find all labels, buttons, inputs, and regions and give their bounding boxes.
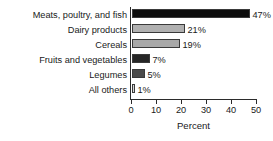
x-axis-title: Percent bbox=[130, 120, 257, 131]
x-axis-line bbox=[130, 99, 257, 100]
x-tick-label-50: 50 bbox=[251, 105, 261, 115]
x-tick-label-40: 40 bbox=[226, 105, 236, 115]
plot-area: Meats, poultry, and fish Dairy products … bbox=[0, 0, 273, 141]
category-label-dairy-products: Dairy products bbox=[0, 25, 127, 35]
x-tick-10 bbox=[156, 100, 157, 104]
bar-dairy-products bbox=[132, 24, 185, 33]
bar-legumes bbox=[132, 69, 145, 78]
bar-all-others bbox=[132, 84, 135, 93]
x-tick-label-10: 10 bbox=[151, 105, 161, 115]
bar-cereals bbox=[132, 39, 180, 48]
value-label-dairy-products: 21% bbox=[188, 25, 206, 35]
value-label-legumes: 5% bbox=[148, 70, 161, 80]
category-label-cereals: Cereals bbox=[0, 40, 127, 50]
x-tick-20 bbox=[181, 100, 182, 104]
x-tick-label-20: 20 bbox=[176, 105, 186, 115]
category-label-meats-poultry-and-fish: Meats, poultry, and fish bbox=[0, 10, 127, 20]
x-tick-label-0: 0 bbox=[128, 105, 133, 115]
value-label-cereals: 19% bbox=[183, 40, 201, 50]
value-label-meats-poultry-and-fish: 47% bbox=[253, 10, 271, 20]
x-tick-40 bbox=[231, 100, 232, 104]
y-axis-line bbox=[130, 7, 131, 99]
bar-fruits-and-vegetables bbox=[132, 54, 150, 63]
x-tick-30 bbox=[206, 100, 207, 104]
category-label-fruits-and-vegetables: Fruits and vegetables bbox=[0, 55, 127, 65]
bar-chart: Meats, poultry, and fish Dairy products … bbox=[0, 0, 273, 141]
value-label-all-others: 1% bbox=[138, 85, 151, 95]
x-tick-0 bbox=[131, 100, 132, 104]
category-label-legumes: Legumes bbox=[0, 70, 127, 80]
category-label-all-others: All others bbox=[0, 85, 127, 95]
x-tick-label-30: 30 bbox=[201, 105, 211, 115]
x-tick-50 bbox=[256, 100, 257, 104]
bar-meats-poultry-and-fish bbox=[132, 9, 250, 18]
value-label-fruits-and-vegetables: 7% bbox=[153, 55, 166, 65]
